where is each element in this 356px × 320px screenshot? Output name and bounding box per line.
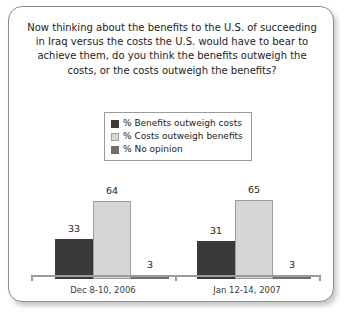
legend-label-benefits: % Benefits outweigh costs [123,118,242,129]
legend-swatch-costs [111,133,119,141]
legend-label-no-opinion: % No opinion [123,144,183,155]
category-label-1: Dec 8-10, 2006 [70,285,135,295]
legend-swatch-benefits [111,120,119,128]
bar-value-g2-no-opinion: 3 [289,259,295,270]
bar-g1-costs [93,201,131,279]
bar-value-g1-no-opinion: 3 [147,259,153,270]
legend-item-no-opinion: % No opinion [111,143,243,156]
bar-g2-benefits [197,241,235,279]
axis-tick-middle [175,275,177,281]
legend-item-benefits: % Benefits outweigh costs [111,117,243,130]
category-label-2: Jan 12-14, 2007 [213,285,281,295]
bar-value-g2-benefits: 31 [210,225,222,236]
legend-swatch-no-opinion [111,146,119,154]
bar-value-g2-costs: 65 [248,184,260,195]
chart-legend: % Benefits outweigh costs % Costs outwei… [104,112,252,161]
legend-item-costs: % Costs outweigh benefits [111,130,243,143]
question-text: Now thinking about the benefits to the U… [25,21,319,78]
bar-value-g1-benefits: 33 [68,223,80,234]
bar-g2-costs [235,200,273,279]
bar-g1-benefits [55,239,93,279]
axis-tick-left [31,275,33,281]
bar-chart-plot: 33 64 3 31 65 3 [31,167,321,279]
chart-card: Now thinking about the benefits to the U… [8,6,334,302]
axis-tick-right [319,275,321,281]
bar-value-g1-costs: 64 [106,185,118,196]
legend-label-costs: % Costs outweigh benefits [123,131,243,142]
